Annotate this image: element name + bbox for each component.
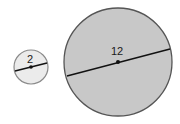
large-circle-center-dot	[116, 60, 120, 64]
small-circle-label: 2	[27, 53, 33, 65]
small-circle-center-dot	[29, 65, 33, 69]
circles-diagram: 2 12	[0, 0, 180, 124]
large-circle-group: 12	[64, 8, 172, 116]
small-circle-group: 2	[14, 50, 48, 84]
large-circle-label: 12	[111, 45, 123, 57]
